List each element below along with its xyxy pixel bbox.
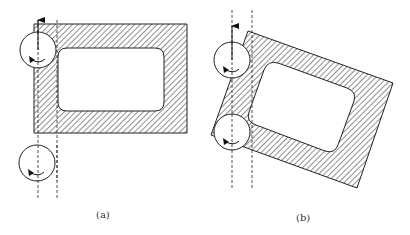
panel-a: (a) <box>19 20 187 220</box>
panel-label-b: (b) <box>296 212 310 223</box>
figure: (a) (b) <box>0 0 410 235</box>
cutter-circle-b-lower <box>214 114 250 150</box>
cutter-circle-a-lower <box>19 145 57 181</box>
panel-label-a: (a) <box>96 209 110 220</box>
panel-b: (b) <box>211 10 393 223</box>
